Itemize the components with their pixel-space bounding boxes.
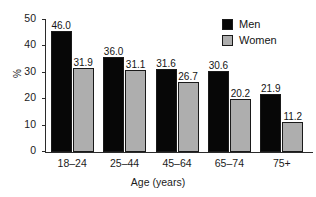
bar-chart: % 0102030405046.031.936.031.131.626.730.…: [0, 0, 316, 197]
x-axis-tick-label: 18–24: [46, 157, 98, 169]
bar-value-label: 21.9: [261, 83, 280, 94]
bar-men-4: 21.9: [260, 94, 281, 152]
x-axis-tick-label: 45–64: [151, 157, 203, 169]
legend-label: Women: [239, 34, 277, 46]
bar-women-4: 11.2: [282, 122, 303, 152]
bar-men-0: 46.0: [51, 31, 72, 152]
y-axis-tick: 10: [42, 125, 46, 126]
bar-value-label: 20.2: [231, 88, 250, 99]
bar-group: 31.626.7: [156, 20, 199, 152]
bar-men-1: 36.0: [103, 57, 124, 152]
bar-men-2: 31.6: [156, 69, 177, 152]
y-axis-tick-label: 10: [24, 119, 36, 130]
bar-group: 46.031.9: [51, 20, 94, 152]
bar-women-3: 20.2: [230, 99, 251, 152]
legend-swatch-icon: [222, 19, 233, 30]
bar-value-label: 31.9: [73, 57, 92, 68]
bar-value-label: 26.7: [178, 71, 197, 82]
y-axis-title: %: [12, 69, 23, 78]
y-axis-tick: 20: [42, 98, 46, 99]
bar-value-label: 31.6: [156, 58, 175, 69]
bar-women-1: 31.1: [125, 70, 146, 152]
bar-value-label: 36.0: [104, 46, 123, 57]
bar-men-3: 30.6: [208, 71, 229, 152]
x-axis-tick-label: 25–44: [98, 157, 150, 169]
bar-value-label: 11.2: [283, 111, 302, 122]
y-axis-tick-label: 50: [24, 13, 36, 24]
legend-swatch-icon: [222, 35, 233, 46]
x-axis-tick-label: 75+: [256, 157, 308, 169]
x-axis-title: Age (years): [0, 176, 316, 188]
legend-label: Men: [239, 18, 260, 30]
bar-value-label: 31.1: [126, 59, 145, 70]
y-axis-tick: 50: [42, 19, 46, 20]
y-axis-tick: 0: [42, 151, 46, 152]
y-axis-tick: 30: [42, 72, 46, 73]
chart-legend: MenWomen: [222, 17, 277, 49]
y-axis-tick-label: 0: [30, 145, 36, 156]
bar-women-0: 31.9: [73, 68, 94, 152]
bar-group: 36.031.1: [103, 20, 146, 152]
bar-women-2: 26.7: [178, 82, 199, 152]
legend-item-men: Men: [222, 17, 277, 31]
y-axis-tick-label: 30: [24, 66, 36, 77]
x-axis-line: [45, 152, 313, 153]
y-axis-tick: 40: [42, 45, 46, 46]
legend-item-women: Women: [222, 33, 277, 47]
y-axis-tick-label: 20: [24, 92, 36, 103]
y-axis-tick-label: 40: [24, 39, 36, 50]
x-axis-tick-label: 65–74: [203, 157, 255, 169]
bar-value-label: 30.6: [209, 60, 228, 71]
bar-value-label: 46.0: [51, 20, 70, 31]
